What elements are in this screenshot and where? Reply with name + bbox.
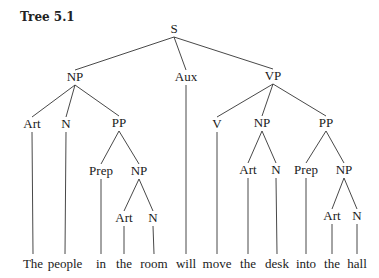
tree-edge [344, 178, 357, 209]
leaf-edge [65, 132, 66, 254]
leaf-edge [276, 178, 277, 254]
tree-edge [119, 131, 139, 164]
tree-edge [75, 37, 174, 70]
sentence-word: desk [265, 256, 289, 271]
tree-node-prep1: Prep [89, 163, 113, 178]
tree-edge [139, 179, 153, 211]
tree-edge [32, 85, 75, 117]
tree-edge [248, 131, 262, 163]
tree-node-art3: Art [239, 162, 257, 177]
tree-edge [326, 131, 344, 163]
syntax-tree-diagram: SNPAuxVPArtNPPVNPPPPrepNPArtNPrepNPArtNA… [0, 0, 379, 278]
sentence-word: hall [347, 256, 367, 271]
tree-node-aux: Aux [175, 69, 198, 84]
tree-node-pp1: PP [112, 115, 126, 130]
sentence-word: move [203, 256, 232, 271]
tree-edge [262, 84, 273, 116]
tree-node-pp2: PP [319, 115, 333, 130]
leaf-edge [32, 132, 33, 254]
tree-node-n1: N [61, 116, 71, 131]
sentence-word: the [324, 256, 340, 271]
tree-edge [66, 85, 75, 117]
tree-edge [174, 37, 273, 69]
tree-node-np1: NP [67, 69, 84, 84]
tree-node-art4: Art [323, 208, 341, 223]
tree-edge [101, 131, 119, 164]
sentence-word: The [23, 256, 43, 271]
tree-node-art1: Art [23, 116, 41, 131]
tree-node-vp: VP [265, 68, 282, 83]
tree-node-n4: N [352, 208, 362, 223]
tree-edge [174, 37, 186, 70]
tree-edge [75, 85, 119, 116]
tree-edge [124, 179, 139, 211]
tree-node-prep2: Prep [294, 162, 318, 177]
tree-node-np4: NP [336, 162, 353, 177]
tree-edge [306, 131, 326, 163]
tree-node-s: S [170, 21, 177, 36]
tree-edge [332, 178, 344, 209]
tree-edge [217, 84, 273, 117]
sentence-words: Thepeopleintheroomwillmovethedeskintothe… [23, 256, 367, 271]
leaf-edge [153, 226, 154, 254]
sentence-word: the [240, 256, 256, 271]
tree-node-n2: N [148, 210, 158, 225]
sentence-word: room [140, 256, 167, 271]
sentence-word: will [176, 256, 197, 271]
tree-node-np3: NP [254, 115, 271, 130]
tree-node-v: V [212, 116, 222, 131]
tree-nodes: SNPAuxVPArtNPPVNPPPPrepNPArtNPrepNPArtNA… [23, 21, 362, 225]
tree-edge [273, 84, 326, 116]
sentence-word: into [296, 256, 316, 271]
tree-edge [262, 131, 276, 163]
sentence-word: people [48, 256, 83, 271]
sentence-word: the [116, 256, 132, 271]
sentence-word: in [96, 256, 107, 271]
tree-node-np2: NP [131, 163, 148, 178]
tree-node-art2: Art [115, 210, 133, 225]
tree-node-n3: N [271, 162, 281, 177]
